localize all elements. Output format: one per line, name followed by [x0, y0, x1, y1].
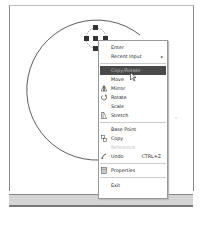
- menu-separator: [100, 163, 166, 164]
- menu-item-rotate[interactable]: Rotate: [99, 93, 167, 102]
- menu-item-properties[interactable]: Properties: [99, 166, 167, 175]
- grip-top: [93, 25, 98, 30]
- menu-item-scale[interactable]: Scale: [99, 102, 167, 111]
- menu-item-base-point[interactable]: Base Point: [99, 125, 167, 134]
- menu-item-exit[interactable]: Exit: [99, 181, 167, 190]
- menu-separator: [100, 122, 166, 123]
- menu-item-reference[interactable]: Reference: [99, 143, 167, 152]
- menu-item-stretch[interactable]: Stretch: [99, 111, 167, 120]
- properties-icon: [101, 167, 107, 174]
- stretch-icon: [101, 112, 107, 119]
- mirror-icon: [101, 85, 107, 92]
- menu-item-enter[interactable]: Enter: [99, 43, 167, 52]
- menu-item-recent-input[interactable]: Recent Input ▸: [99, 52, 167, 61]
- mouse-cursor-icon: [130, 72, 138, 82]
- menu-separator: [100, 63, 166, 64]
- menu-item-undo[interactable]: Undo CTRL+Z: [99, 152, 167, 161]
- menu-item-copy[interactable]: Copy: [99, 134, 167, 143]
- rotate-icon: [101, 94, 107, 101]
- undo-icon: [101, 153, 107, 160]
- submenu-arrow-icon: ▸: [161, 52, 163, 61]
- copy-icon: [101, 135, 107, 142]
- menu-separator: [100, 177, 166, 178]
- context-menu: Enter Recent Input ▸ Copy/Rotate Move Mi…: [98, 40, 168, 199]
- grip-left: [84, 36, 89, 41]
- menu-item-mirror[interactable]: Mirror: [99, 84, 167, 93]
